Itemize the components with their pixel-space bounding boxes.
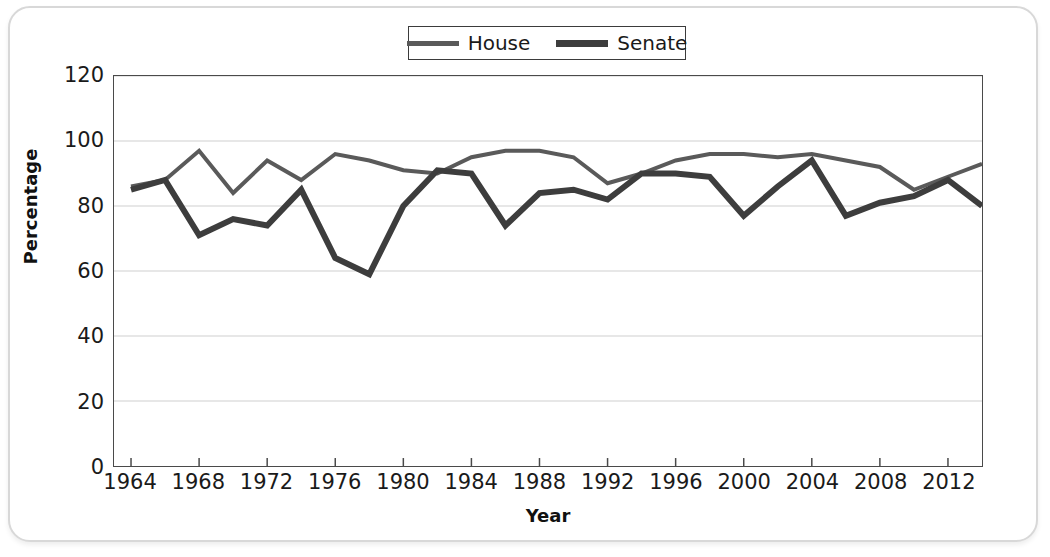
legend-label-house: House bbox=[468, 33, 531, 53]
x-axis-tick-label: 1996 bbox=[649, 472, 702, 493]
y-axis-tick-label: 20 bbox=[46, 391, 104, 412]
x-axis-tick-label: 1980 bbox=[376, 472, 429, 493]
x-axis-tick-label: 1964 bbox=[103, 472, 156, 493]
y-axis-tick-label: 80 bbox=[46, 195, 104, 216]
x-axis-tick-label: 2012 bbox=[922, 472, 975, 493]
legend-entry-house: House bbox=[407, 33, 531, 53]
series-line-house bbox=[131, 151, 982, 193]
y-axis-tick-label: 40 bbox=[46, 326, 104, 347]
senate-line-swatch bbox=[556, 40, 608, 47]
x-axis-tick-label: 2000 bbox=[717, 472, 770, 493]
x-axis-tick-label: 1984 bbox=[445, 472, 498, 493]
series-line-senate bbox=[131, 161, 982, 275]
plot-area bbox=[113, 75, 983, 467]
x-axis-tick-label: 2008 bbox=[854, 472, 907, 493]
x-axis-tick-label: 1976 bbox=[308, 472, 361, 493]
y-axis-tick-label: 60 bbox=[46, 261, 104, 282]
y-axis-title: Percentage bbox=[20, 117, 41, 297]
legend-entry-senate: Senate bbox=[556, 33, 687, 53]
x-axis-tick-label: 2004 bbox=[786, 472, 839, 493]
x-axis-tick-labels: 1964196819721976198019841988199219962000… bbox=[113, 472, 983, 502]
legend-label-senate: Senate bbox=[617, 33, 687, 53]
y-axis-tick-labels: 020406080100120 bbox=[42, 75, 104, 467]
y-axis-tick-label: 0 bbox=[46, 457, 104, 478]
y-axis-tick-label: 100 bbox=[46, 130, 104, 151]
x-axis-tick-label: 1988 bbox=[513, 472, 566, 493]
x-axis-tick-label: 1972 bbox=[240, 472, 293, 493]
chart-legend: House Senate bbox=[408, 26, 686, 60]
plot-svg bbox=[114, 76, 982, 466]
house-line-swatch bbox=[407, 41, 459, 46]
y-axis-tick-label: 120 bbox=[46, 65, 104, 86]
x-axis-tick-label: 1968 bbox=[172, 472, 225, 493]
x-axis-title: Year bbox=[113, 505, 983, 526]
chart-figure: House Senate 020406080100120 19641968197… bbox=[0, 0, 1050, 557]
x-axis-tick-label: 1992 bbox=[581, 472, 634, 493]
